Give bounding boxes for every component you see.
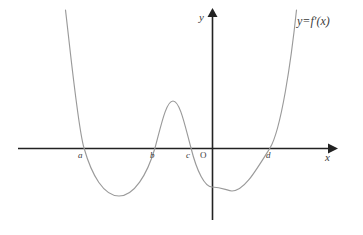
root-label-c: c (186, 151, 190, 160)
root-label-b: b (150, 151, 155, 160)
origin-label: O (200, 151, 207, 160)
figure-canvas: a b c O d x y y=f′(x) (0, 0, 363, 235)
root-label-a: a (78, 151, 83, 160)
y-axis-arrowhead (208, 8, 218, 17)
derivative-graph-svg (0, 0, 363, 235)
y-axis-label: y (199, 12, 204, 23)
derivative-curve (66, 10, 297, 196)
root-label-d: d (266, 151, 271, 160)
x-axis-label: x (325, 152, 330, 163)
curve-equation-label: y=f′(x) (297, 15, 330, 27)
